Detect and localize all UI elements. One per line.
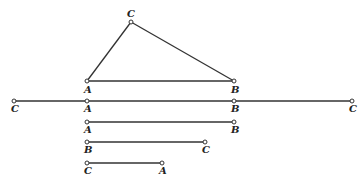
vertex-label: C bbox=[127, 8, 135, 19]
point-label: C bbox=[11, 103, 19, 114]
point-label: B bbox=[230, 103, 239, 114]
point-label: C bbox=[349, 103, 357, 114]
point-label: B bbox=[230, 124, 239, 135]
vertex-label: B bbox=[230, 84, 239, 95]
point-label: A bbox=[83, 124, 92, 135]
triangle-side bbox=[87, 22, 131, 81]
point-label: A bbox=[158, 165, 167, 176]
vertex-point bbox=[129, 20, 133, 24]
point-label: A bbox=[83, 103, 92, 114]
triangle-side bbox=[131, 22, 234, 81]
vertex-point bbox=[232, 79, 236, 83]
triangle-inequality-figure: CABCABCABBCCA bbox=[0, 0, 364, 184]
vertex-label: A bbox=[83, 84, 92, 95]
point-label: C bbox=[202, 144, 210, 155]
point-label: B bbox=[83, 144, 92, 155]
vertex-point bbox=[85, 79, 89, 83]
geometry-diagram: CABCABCABBCCA bbox=[0, 0, 364, 184]
point-label: C bbox=[84, 165, 92, 176]
